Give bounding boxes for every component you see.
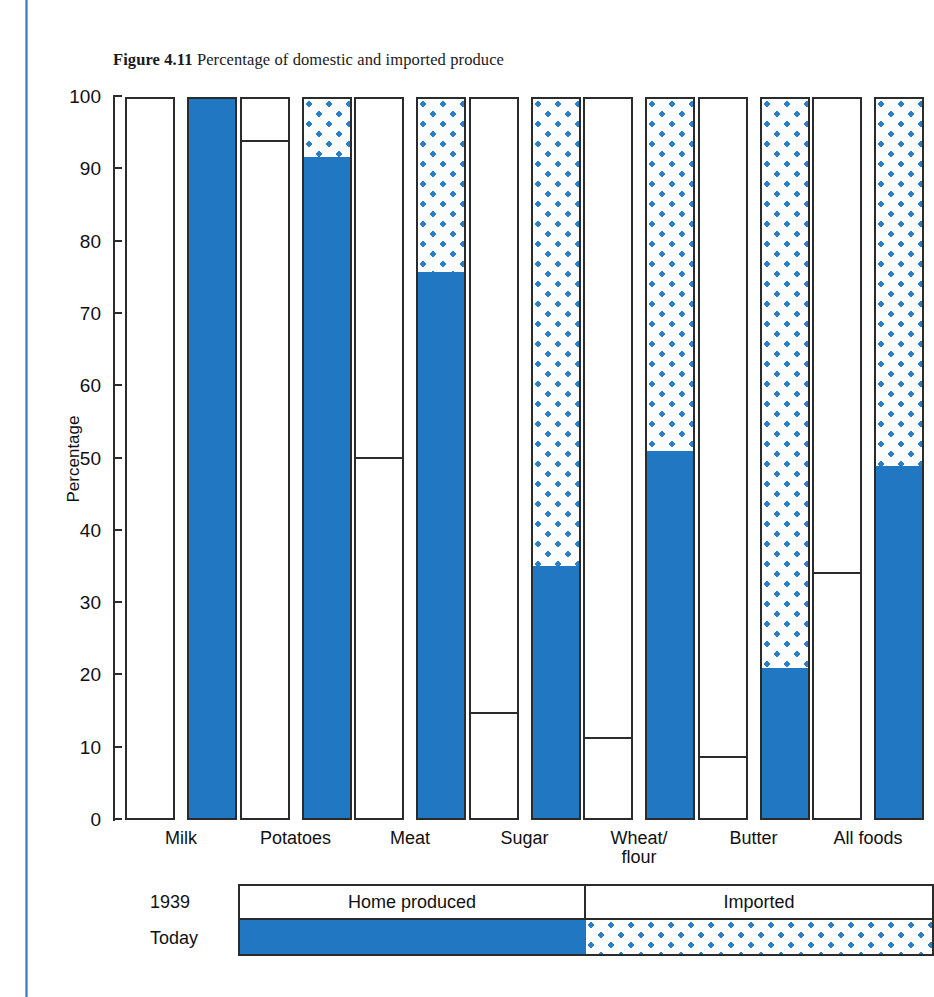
- x-axis-category-label: Sugar: [500, 829, 548, 848]
- y-tick-label: 0: [90, 810, 101, 829]
- bar-group: All foods: [812, 97, 924, 820]
- bar-today-home-produced: [533, 566, 579, 818]
- chart-plot-area: Percentage 0102030405060708090100 MilkPo…: [113, 97, 913, 820]
- bar-group: Meat: [354, 97, 466, 820]
- y-tick: 10: [113, 746, 122, 748]
- bar-group: Wheat/flour: [583, 97, 695, 820]
- bar-today-imported: [762, 99, 808, 668]
- bar-group: Milk: [125, 97, 237, 820]
- y-axis-line: [113, 96, 115, 821]
- bar-1939[interactable]: [698, 97, 748, 820]
- y-tick: 70: [113, 312, 122, 314]
- bar-1939-divider: [469, 712, 519, 714]
- figure-caption-text: Percentage of domestic and imported prod…: [197, 50, 504, 69]
- x-axis-category-label: All foods: [833, 829, 902, 848]
- bar-today-home-produced: [762, 668, 808, 818]
- y-tick: 60: [113, 384, 122, 386]
- bar-today[interactable]: [645, 97, 695, 820]
- x-axis-category-label: Butter: [729, 829, 777, 848]
- bar-1939-divider: [812, 572, 862, 574]
- y-tick: 100: [113, 95, 122, 97]
- figure-caption: Figure 4.11 Percentage of domestic and i…: [113, 50, 504, 70]
- y-tick-label: 50: [80, 448, 101, 467]
- y-tick: 0: [113, 818, 122, 820]
- bar-1939[interactable]: [583, 97, 633, 820]
- bar-1939[interactable]: [240, 97, 290, 820]
- x-axis-category-label: Wheat/flour: [610, 829, 667, 867]
- y-tick-label: 90: [80, 159, 101, 178]
- bar-1939[interactable]: [354, 97, 404, 820]
- bar-today-home-produced: [304, 157, 350, 818]
- bar-today[interactable]: [531, 97, 581, 820]
- bar-today[interactable]: [874, 97, 924, 820]
- bar-today-home-produced: [189, 99, 235, 818]
- legend-row-label: 1939: [150, 892, 232, 913]
- legend-home-produced: Home produced: [240, 886, 586, 918]
- y-tick-label: 10: [80, 737, 101, 756]
- legend-imported: Imported: [586, 886, 932, 918]
- y-tick-label: 80: [80, 231, 101, 250]
- y-tick: 40: [113, 529, 122, 531]
- bar-today-home-produced: [876, 466, 922, 818]
- y-tick-label: 70: [80, 303, 101, 322]
- bar-today-imported: [876, 99, 922, 466]
- bar-group: Butter: [698, 97, 810, 820]
- bar-today-home-produced: [647, 451, 693, 818]
- figure-number: Figure 4.11: [113, 50, 193, 69]
- legend-box-1939: Home produced Imported: [238, 884, 934, 920]
- bar-today[interactable]: [187, 97, 237, 820]
- y-tick: 50: [113, 457, 122, 459]
- bar-group: Potatoes: [240, 97, 352, 820]
- bar-today-imported: [647, 99, 693, 451]
- y-tick-label: 20: [80, 665, 101, 684]
- bar-today-home-produced: [418, 272, 464, 818]
- y-tick: 30: [113, 601, 122, 603]
- legend-home-produced-swatch: [240, 920, 586, 954]
- x-axis-category-label: Potatoes: [260, 829, 331, 848]
- bar-today[interactable]: [416, 97, 466, 820]
- bar-today[interactable]: [302, 97, 352, 820]
- bar-today-imported: [304, 99, 350, 157]
- bar-group: Sugar: [469, 97, 581, 820]
- bar-today-imported: [533, 99, 579, 566]
- x-axis-category-label: Milk: [165, 829, 197, 848]
- bar-today-imported: [418, 99, 464, 272]
- bar-1939[interactable]: [125, 97, 175, 820]
- legend-box-today: [238, 920, 934, 956]
- bar-1939-divider: [354, 457, 404, 459]
- bar-1939[interactable]: [812, 97, 862, 820]
- y-tick: 20: [113, 673, 122, 675]
- bar-1939-divider: [698, 756, 748, 758]
- y-tick-label: 40: [80, 520, 101, 539]
- bar-1939[interactable]: [469, 97, 519, 820]
- legend-row-label: Today: [150, 928, 232, 949]
- y-tick-label: 30: [80, 593, 101, 612]
- legend-imported-swatch: [586, 920, 932, 954]
- y-tick: 80: [113, 240, 122, 242]
- bar-1939-divider: [240, 140, 290, 142]
- y-tick-label: 60: [80, 376, 101, 395]
- bar-today[interactable]: [760, 97, 810, 820]
- bar-1939-divider: [583, 737, 633, 739]
- y-tick: 90: [113, 167, 122, 169]
- page-margin-rule: [25, 0, 28, 997]
- y-tick-label: 100: [69, 87, 101, 106]
- x-axis-category-label: Meat: [390, 829, 430, 848]
